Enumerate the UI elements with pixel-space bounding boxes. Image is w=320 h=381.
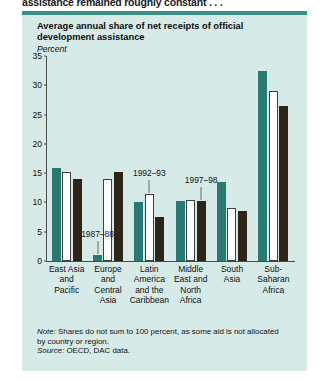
- x-axis-label-line: Saharan: [257, 274, 289, 284]
- x-axis-label-line: Latin: [130, 264, 169, 274]
- chart-title: Average annual share of net receipts of …: [37, 21, 295, 44]
- bar-1987-88[interactable]: [93, 255, 102, 261]
- bar-1997-98[interactable]: [197, 201, 206, 261]
- series-annotation-label: 1992–93: [133, 168, 166, 178]
- bar-1987-88[interactable]: [52, 168, 61, 261]
- y-axis-tick-label: 20: [32, 139, 42, 149]
- x-axis-category-label: SouthAsia: [221, 264, 243, 285]
- bar-1992-93[interactable]: [62, 172, 71, 261]
- x-axis-label-line: Europe: [94, 264, 121, 274]
- x-axis-label-line: Africa: [174, 295, 208, 305]
- bar-1997-98[interactable]: [238, 211, 247, 261]
- x-axis-label-line: and the: [130, 285, 169, 295]
- x-axis-category-label: East AsiaandPacific: [49, 264, 84, 295]
- series-annotation-label: 1987–88: [81, 229, 114, 239]
- bar-1992-93[interactable]: [227, 208, 236, 261]
- bar-1997-98[interactable]: [279, 106, 288, 261]
- y-axis-tick-label: 0: [37, 256, 42, 266]
- x-axis-label-line: East Asia: [49, 264, 84, 274]
- bar-group: [129, 56, 170, 261]
- x-axis-label-line: South: [221, 264, 243, 274]
- x-axis-label-line: Central: [94, 285, 121, 295]
- bar-group: [253, 56, 294, 261]
- bar-1987-88[interactable]: [258, 71, 267, 261]
- x-axis-category-label: Sub-SaharanAfrica: [257, 264, 289, 295]
- series-annotation-label: 1997–98: [185, 175, 218, 185]
- x-axis-label-line: North: [174, 285, 208, 295]
- y-axis-tick-label: 30: [32, 80, 42, 90]
- y-axis-tick-label: 25: [32, 110, 42, 120]
- y-axis-tick-label: 10: [32, 197, 42, 207]
- plot-area: 051015202530351987–881992–931997–98: [46, 56, 294, 261]
- y-axis-tick-label: 15: [32, 168, 42, 178]
- x-axis-label-line: Asia: [94, 295, 121, 305]
- bar-1987-88[interactable]: [176, 201, 185, 261]
- y-axis-tick-label: 35: [32, 51, 42, 61]
- y-axis-tick-label: 5: [37, 227, 42, 237]
- x-axis-label-line: Africa: [257, 285, 289, 295]
- note-label: Note:: [37, 327, 56, 336]
- x-axis-category-label: LatinAmericaand theCaribbean: [130, 264, 169, 306]
- bar-1987-88[interactable]: [217, 182, 226, 261]
- x-axis-line: [46, 261, 295, 262]
- bar-1992-93[interactable]: [269, 91, 278, 261]
- x-axis-label-line: Asia: [221, 274, 243, 284]
- annotation-leader-line: [149, 180, 150, 193]
- bar-group: [170, 56, 211, 261]
- x-axis-category-label: EuropeandCentralAsia: [94, 264, 121, 306]
- x-axis-label-line: Pacific: [49, 285, 84, 295]
- x-axis-label-line: East and: [174, 274, 208, 284]
- figure-container: assistance remained roughly constant . .…: [0, 0, 320, 381]
- x-axis-label-line: Sub-: [257, 264, 289, 274]
- bar-1997-98[interactable]: [73, 179, 82, 261]
- source-text: OECD, DAC data.: [64, 346, 130, 355]
- bar-1992-93[interactable]: [145, 194, 154, 261]
- x-axis-label-line: America: [130, 274, 169, 284]
- x-axis-label-line: and: [49, 274, 84, 284]
- annotation-leader-line: [201, 187, 202, 200]
- bar-1997-98[interactable]: [114, 172, 123, 261]
- x-axis-category-label: MiddleEast andNorthAfrica: [174, 264, 208, 306]
- figure-note: Note: Shares do not sum to 100 percent, …: [37, 327, 289, 356]
- x-axis-label-line: and: [94, 274, 121, 284]
- bar-1987-88[interactable]: [134, 202, 143, 261]
- bar-group: [211, 56, 252, 261]
- panel-top-rule: [22, 11, 307, 15]
- x-axis-label-line: Middle: [174, 264, 208, 274]
- annotation-leader-line: [97, 241, 98, 254]
- bar-1992-93[interactable]: [186, 200, 195, 262]
- figure-caption: assistance remained roughly constant . .…: [22, 0, 312, 10]
- bar-1992-93[interactable]: [103, 179, 112, 261]
- x-axis-label-line: Caribbean: [130, 295, 169, 305]
- source-label: Source:: [37, 346, 64, 355]
- bar-1997-98[interactable]: [155, 217, 164, 261]
- note-text: Shares do not sum to 100 percent, as som…: [37, 327, 279, 346]
